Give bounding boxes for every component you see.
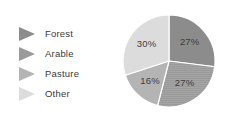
legend-item-arable[interactable]: Arable bbox=[16, 44, 102, 64]
pie-slice-label: 16% bbox=[140, 75, 160, 86]
pie-svg: 27%27%16%30% bbox=[119, 11, 219, 111]
triangle-right-icon bbox=[16, 44, 38, 64]
triangle-right-icon bbox=[16, 84, 38, 104]
legend-swatch-other bbox=[19, 87, 35, 101]
chart-legend: Forest Arable Pasture bbox=[16, 24, 102, 104]
legend-item-label: Other bbox=[45, 84, 70, 104]
legend-swatch-forest bbox=[19, 27, 35, 41]
triangle-right-icon bbox=[16, 64, 38, 84]
legend-swatch-pasture bbox=[19, 67, 35, 81]
pie-slices bbox=[123, 15, 215, 107]
legend-item-other[interactable]: Other bbox=[16, 84, 102, 104]
pie-graphic: 27%27%16%30% bbox=[119, 11, 219, 111]
legend-swatch-arable bbox=[19, 47, 35, 61]
legend-item-label: Pasture bbox=[45, 64, 79, 84]
legend-item-label: Arable bbox=[45, 44, 74, 64]
legend-item-label: Forest bbox=[45, 24, 73, 44]
pie-slice-label: 27% bbox=[180, 36, 200, 47]
pie-slice-label: 27% bbox=[175, 77, 195, 88]
legend-item-pasture[interactable]: Pasture bbox=[16, 64, 102, 84]
legend-item-forest[interactable]: Forest bbox=[16, 24, 102, 44]
pie-slice-label: 30% bbox=[137, 38, 157, 49]
pie-chart-figure: Forest Arable Pasture bbox=[0, 0, 229, 122]
triangle-right-icon bbox=[16, 24, 38, 44]
